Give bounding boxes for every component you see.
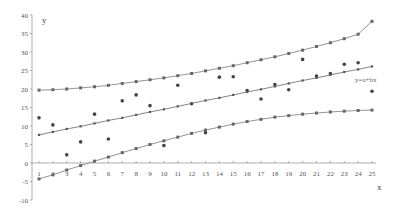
- x-tick-label: 10: [160, 170, 168, 178]
- line-marker: [79, 86, 82, 89]
- line-marker: [38, 89, 41, 92]
- data-point: [93, 112, 97, 116]
- x-axis-title: x: [377, 182, 382, 192]
- line-marker: [190, 132, 193, 135]
- line-marker: [107, 119, 109, 121]
- line-marker: [149, 78, 152, 81]
- y-axis-title: y: [42, 15, 47, 25]
- line-marker: [274, 85, 276, 87]
- line-marker: [162, 139, 165, 142]
- line-marker: [371, 109, 374, 112]
- x-tick-label: 20: [299, 170, 307, 178]
- x-tick-label: 15: [230, 170, 238, 178]
- line-marker: [218, 126, 221, 129]
- line-series: [38, 65, 373, 136]
- line-marker: [162, 76, 165, 79]
- x-tick-label: 16: [244, 170, 252, 178]
- x-tick-label: 19: [285, 170, 293, 178]
- data-point: [356, 61, 360, 65]
- x-tick-label: 9: [148, 170, 152, 178]
- regression-chart: -10-50510152025303540 123456789101112131…: [0, 0, 399, 216]
- data-point: [287, 88, 291, 92]
- line-marker: [121, 82, 124, 85]
- line-marker: [246, 120, 249, 123]
- line-marker: [287, 52, 290, 55]
- line-marker: [93, 160, 96, 163]
- line-marker: [218, 67, 221, 70]
- data-point: [65, 153, 69, 157]
- data-point: [134, 93, 138, 97]
- scatter-series: [37, 58, 374, 157]
- line-marker: [190, 72, 193, 75]
- data-point: [342, 62, 346, 66]
- line-marker: [371, 65, 373, 67]
- line-marker: [232, 123, 235, 126]
- line-marker: [232, 94, 234, 96]
- line-marker: [135, 114, 137, 116]
- line-marker: [301, 113, 304, 116]
- line-marker: [121, 151, 124, 154]
- x-tick-label: 6: [107, 170, 111, 178]
- y-tick-label: -5: [22, 178, 28, 186]
- y-tick-label: 40: [21, 12, 29, 20]
- data-point: [107, 137, 111, 141]
- x-tick-label: 5: [93, 170, 97, 178]
- line-marker: [357, 109, 360, 112]
- line-marker: [52, 131, 54, 133]
- line-marker: [204, 129, 207, 132]
- line-marker: [66, 128, 68, 130]
- x-tick-label: 23: [341, 170, 349, 178]
- x-tick-label: 4: [79, 170, 83, 178]
- line-marker: [315, 77, 317, 79]
- line-marker: [273, 55, 276, 58]
- y-tick-label: 0: [25, 160, 29, 168]
- x-tick-label: 13: [202, 170, 210, 178]
- line-marker: [246, 91, 248, 93]
- y-tick-label: 20: [21, 86, 29, 94]
- x-tick-label: 25: [369, 170, 377, 178]
- line-marker: [371, 20, 374, 23]
- line-marker: [65, 88, 68, 91]
- line-marker: [315, 45, 318, 48]
- line-marker: [80, 125, 82, 127]
- y-tick-label: 10: [21, 123, 29, 131]
- line-marker: [149, 111, 151, 113]
- line-marker: [301, 49, 304, 52]
- data-point: [301, 58, 305, 62]
- x-tick-label: 22: [327, 170, 335, 178]
- line-marker: [343, 37, 346, 40]
- y-tick-label: 35: [21, 30, 29, 38]
- line-marker: [315, 112, 318, 115]
- x-tick-label: 1: [37, 170, 41, 178]
- line-marker: [260, 88, 262, 90]
- line-marker: [65, 169, 68, 172]
- line-marker: [121, 117, 123, 119]
- line-marker: [177, 105, 179, 107]
- line-marker: [329, 110, 332, 113]
- y-tick-label: 25: [21, 67, 29, 75]
- x-tick-label: 12: [188, 170, 196, 178]
- line-marker: [51, 88, 54, 91]
- fit-equation-label: y=a+bx: [355, 76, 377, 84]
- data-point: [37, 116, 41, 120]
- y-tick-label: 30: [21, 49, 29, 57]
- line-marker: [343, 110, 346, 113]
- data-point: [370, 89, 374, 93]
- line-marker: [204, 69, 207, 72]
- x-tick-label: 24: [355, 170, 363, 178]
- line-marker: [329, 41, 332, 44]
- line-marker: [246, 61, 249, 64]
- line-marker: [51, 173, 54, 176]
- x-tick-label: 17: [258, 170, 266, 178]
- line-series: [38, 20, 374, 92]
- line-marker: [204, 99, 206, 101]
- line-marker: [357, 68, 359, 70]
- x-tick-label: 7: [121, 170, 125, 178]
- line-marker: [38, 134, 40, 136]
- line-marker: [343, 71, 345, 73]
- x-tick-label: 18: [271, 170, 279, 178]
- line-marker: [176, 136, 179, 139]
- line-marker: [149, 143, 152, 146]
- data-point: [218, 75, 222, 79]
- line-marker: [176, 74, 179, 77]
